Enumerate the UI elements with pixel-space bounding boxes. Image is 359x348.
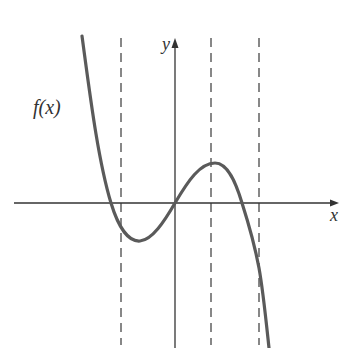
y-axis-arrow-icon xyxy=(172,38,179,48)
function-graph: f(x) y x xyxy=(0,0,359,348)
x-axis-label: x xyxy=(329,205,338,225)
function-label: f(x) xyxy=(33,96,61,119)
y-axis-label: y xyxy=(160,34,170,54)
